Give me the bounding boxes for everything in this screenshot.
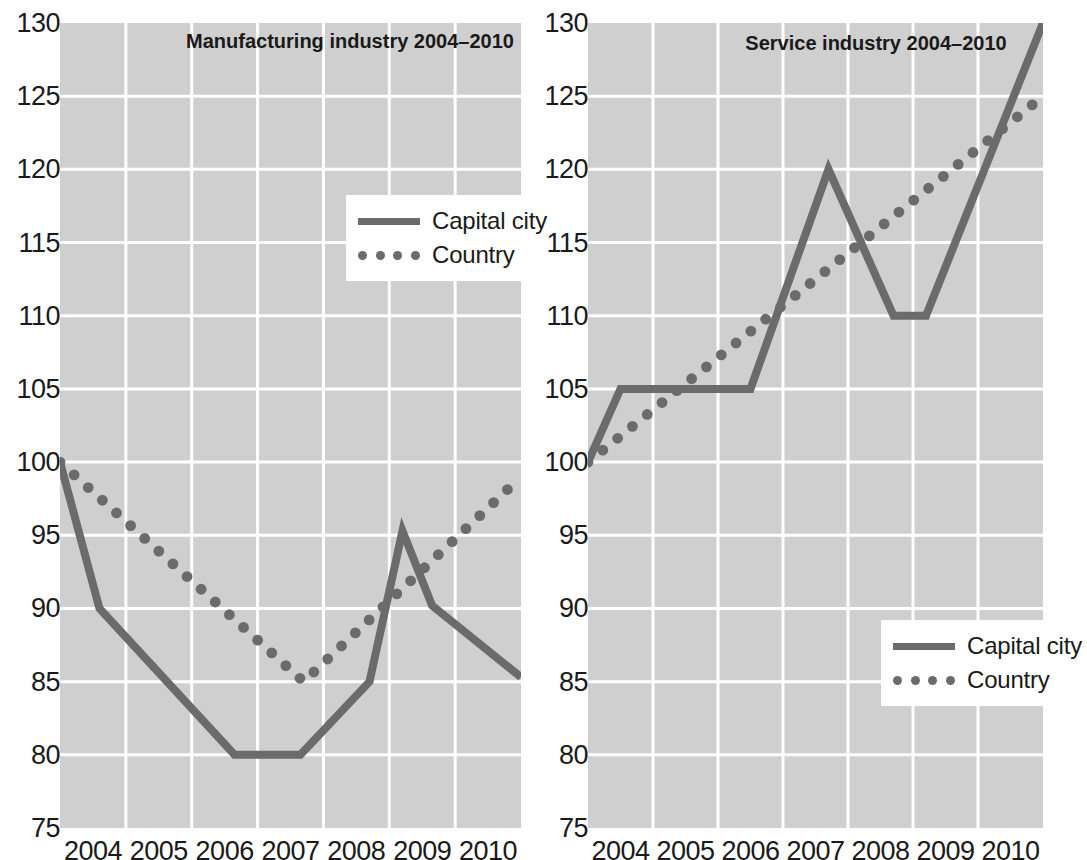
x-tick-label: 2007 [786, 836, 844, 860]
y-tick-label: 115 [18, 227, 60, 258]
x-tick-label: 2005 [130, 836, 188, 860]
y-tick-label: 130 [544, 8, 588, 39]
series-country [588, 99, 1038, 467]
legend-entry-country: Country [358, 238, 547, 272]
y-tick-label: 85 [559, 666, 588, 697]
y-tick-label: 120 [16, 154, 60, 185]
x-tick-label: 2006 [196, 836, 254, 860]
y-tick-label: 130 [16, 8, 60, 39]
y-tick-label: 80 [31, 739, 60, 770]
chart-panel-service: 1301251201151101051009590858075 Service … [527, 0, 1055, 860]
gridlines [588, 23, 1043, 828]
y-axis-labels-manufacturing: 1301251201151101051009590858075 [4, 0, 60, 860]
legend-entry-country: Country [893, 663, 1082, 697]
y-tick-label: 115 [546, 227, 588, 258]
x-tick-label: 2010 [459, 836, 517, 860]
y-tick-label: 125 [544, 81, 588, 112]
x-tick-label: 2004 [591, 836, 649, 860]
x-tick-label: 2009 [916, 836, 974, 860]
series-country [60, 457, 513, 684]
y-tick-label: 110 [546, 300, 588, 331]
legend-key-solid-line-icon [893, 635, 955, 657]
x-tick-label: 2008 [327, 836, 385, 860]
plot-svg-manufacturing [60, 23, 521, 828]
y-tick-label: 95 [559, 520, 588, 551]
y-tick-label: 80 [559, 739, 588, 770]
plot-area-manufacturing [60, 23, 521, 828]
y-tick-label: 75 [559, 813, 588, 844]
legend-entry-capital-city: Capital city [893, 629, 1082, 663]
chart-title-service: Service industry 2004–2010 [745, 32, 1006, 55]
x-tick-label: 2005 [656, 836, 714, 860]
y-tick-label: 100 [16, 447, 60, 478]
legend-label-capital-city: Capital city [967, 632, 1082, 660]
legend-entry-capital-city: Capital city [358, 204, 547, 238]
x-tick-label: 2008 [851, 836, 909, 860]
plot-svg-service [588, 23, 1043, 828]
legend-label-country: Country [967, 666, 1050, 694]
y-tick-label: 85 [31, 666, 60, 697]
x-tick-label: 2007 [261, 836, 319, 860]
legend-key-dotted-line-icon [893, 669, 955, 691]
y-tick-label: 90 [559, 593, 588, 624]
x-tick-label: 2004 [64, 836, 122, 860]
legend-service: Capital city Country [881, 620, 1087, 706]
y-tick-label: 105 [16, 373, 60, 404]
x-tick-label: 2006 [721, 836, 779, 860]
y-tick-label: 100 [544, 447, 588, 478]
y-axis-labels-service: 1301251201151101051009590858075 [532, 0, 588, 860]
x-tick-label: 2009 [393, 836, 451, 860]
legend-key-dotted-line-icon [358, 244, 420, 266]
y-tick-label: 105 [544, 373, 588, 404]
gridlines [60, 23, 521, 828]
legend-label-country: Country [432, 241, 515, 269]
y-tick-label: 125 [16, 81, 60, 112]
chart-title-manufacturing: Manufacturing industry 2004–2010 [186, 30, 514, 53]
plot-area-service [588, 23, 1043, 828]
y-tick-label: 90 [31, 593, 60, 624]
y-tick-label: 120 [544, 154, 588, 185]
x-tick-label: 2010 [981, 836, 1039, 860]
y-tick-label: 110 [18, 300, 60, 331]
legend-key-solid-line-icon [358, 210, 420, 232]
y-tick-label: 95 [31, 520, 60, 551]
y-tick-label: 75 [31, 813, 60, 844]
chart-panel-manufacturing: 1301251201151101051009590858075 Manufact… [0, 0, 527, 860]
